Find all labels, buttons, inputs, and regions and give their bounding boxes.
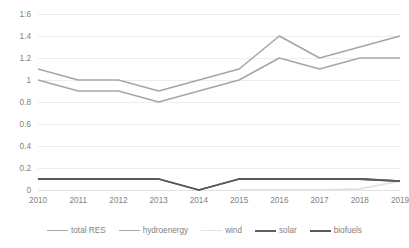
plot-area: 00.20.40.60.811.21.41.6 2010201120122013… — [0, 0, 409, 214]
series-line-wind — [239, 181, 400, 190]
legend-item-biofuels[interactable]: biofuels — [310, 227, 362, 235]
series-line-biofuels — [38, 179, 400, 190]
x-axis-tick-label: 2018 — [351, 196, 370, 205]
legend-label: wind — [225, 227, 242, 235]
x-axis-tick-label: 2013 — [150, 196, 169, 205]
y-axis-tick-label: 0.6 — [20, 120, 32, 129]
x-axis-tick-label: 2012 — [109, 196, 128, 205]
x-axis-tick-label: 2011 — [69, 196, 87, 205]
gridlines-group — [38, 14, 400, 190]
legend-label: total RES — [71, 227, 106, 235]
y-axis-tick-label: 0 — [26, 186, 31, 195]
legend-swatch-icon — [119, 230, 140, 231]
legend-swatch-icon — [201, 230, 222, 231]
xtick-labels-group: 2010201120122013201420152016201720182019 — [29, 196, 409, 205]
x-axis-tick-label: 2015 — [230, 196, 249, 205]
y-axis-tick-label: 0.2 — [20, 164, 32, 173]
x-axis-tick-label: 2016 — [270, 196, 289, 205]
legend-item-total-res[interactable]: total RES — [47, 227, 106, 235]
legend-swatch-icon — [255, 230, 276, 232]
legend-item-wind[interactable]: wind — [201, 227, 242, 235]
legend-label: solar — [279, 227, 297, 235]
x-axis-tick-label: 2017 — [310, 196, 329, 205]
legend-item-hydroenergy[interactable]: hydroenergy — [119, 227, 189, 235]
line-chart: 00.20.40.60.811.21.41.6 2010201120122013… — [0, 0, 409, 248]
series-line-total-res — [38, 36, 400, 91]
y-axis-tick-label: 1.2 — [20, 54, 32, 63]
y-axis-tick-label: 1.4 — [20, 32, 32, 41]
chart-canvas: 00.20.40.60.811.21.41.6 2010201120122013… — [0, 0, 409, 214]
y-axis-tick-label: 0.4 — [20, 142, 32, 151]
legend-label: biofuels — [334, 227, 362, 235]
series-group — [38, 36, 400, 190]
legend-swatch-icon — [310, 230, 331, 232]
x-axis-tick-label: 2014 — [190, 196, 209, 205]
legend-label: hydroenergy — [143, 227, 189, 235]
legend-item-solar[interactable]: solar — [255, 227, 297, 235]
ytick-labels-group: 00.20.40.60.811.21.41.6 — [20, 10, 32, 195]
legend-swatch-icon — [47, 230, 68, 231]
x-axis-tick-label: 2019 — [391, 196, 409, 205]
y-axis-tick-label: 1 — [26, 76, 31, 85]
y-axis-tick-label: 0.8 — [20, 98, 32, 107]
chart-legend: total REShydroenergywindsolarbiofuels — [0, 218, 409, 244]
x-axis-tick-label: 2010 — [29, 196, 48, 205]
y-axis-tick-label: 1.6 — [20, 10, 32, 19]
